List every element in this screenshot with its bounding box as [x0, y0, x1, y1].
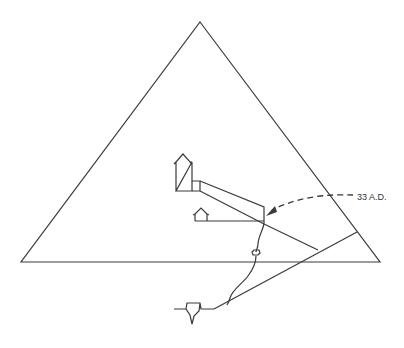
arrow-head-icon — [266, 206, 277, 216]
pyramid-outline — [21, 22, 380, 262]
descending-passage — [214, 232, 357, 309]
antechamber — [192, 181, 200, 191]
kings-chamber — [174, 154, 192, 191]
ascending-passage — [264, 224, 318, 250]
grand-gallery — [200, 181, 264, 224]
queens-chamber — [193, 208, 209, 221]
pyramid-diagram: 33 A.D. — [0, 0, 404, 348]
well-shaft — [227, 224, 264, 305]
date-arrow — [272, 195, 353, 210]
date-label: 33 A.D. — [357, 192, 387, 202]
subterranean-chamber — [174, 303, 214, 324]
